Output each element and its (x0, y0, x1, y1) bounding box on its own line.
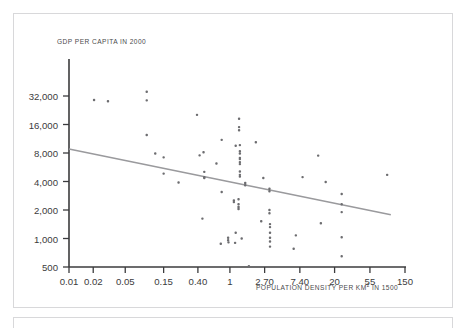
data-point (154, 152, 156, 154)
x-tick-label: 2.70 (255, 276, 274, 287)
data-point (269, 223, 271, 225)
data-point (237, 203, 239, 205)
data-point (201, 217, 203, 219)
data-point (146, 91, 148, 93)
y-tick-label: 4,000 (14, 176, 58, 187)
x-tick-label: 20 (329, 276, 340, 287)
y-tick-label: 1,000 (14, 233, 58, 244)
data-point (317, 154, 319, 156)
data-point (262, 177, 264, 179)
data-point (215, 162, 217, 164)
x-tick-label: 1 (227, 276, 232, 287)
data-point (239, 170, 241, 172)
data-point (177, 181, 179, 183)
data-point (234, 242, 236, 244)
data-point (269, 226, 271, 228)
data-point (320, 222, 322, 224)
data-point (93, 99, 95, 101)
data-point (203, 177, 205, 179)
data-point (248, 265, 250, 267)
data-point (239, 158, 241, 160)
data-point (162, 172, 164, 174)
x-tick-label: 0.01 (60, 276, 79, 287)
data-point (340, 203, 342, 205)
data-point (237, 198, 239, 200)
data-point (244, 184, 246, 186)
data-point (107, 100, 109, 102)
x-tick-label: 0.15 (154, 276, 173, 287)
data-point (238, 118, 240, 120)
x-tick-label: 55 (365, 276, 376, 287)
data-point (227, 236, 229, 238)
data-point (268, 190, 270, 192)
scatter-plot: GDP PER CAPITA IN 2000 POPULATION DENSIT… (14, 14, 454, 309)
y-tick-label: 16,000 (14, 119, 58, 130)
data-point (162, 156, 164, 158)
data-point (237, 208, 239, 210)
x-tick-label: 150 (397, 276, 413, 287)
data-point (220, 191, 222, 193)
data-point (255, 141, 257, 143)
data-point (235, 145, 237, 147)
data-point (238, 129, 240, 131)
data-point (239, 175, 241, 177)
data-point (146, 99, 148, 101)
data-point (239, 150, 241, 152)
data-point (239, 163, 241, 165)
data-point (340, 236, 342, 238)
plot-canvas (14, 14, 454, 309)
y-tick-label: 8,000 (14, 148, 58, 159)
data-point (268, 188, 270, 190)
data-point (301, 176, 303, 178)
data-point (238, 126, 240, 128)
data-point (220, 139, 222, 141)
data-point (292, 248, 294, 250)
x-tick-label: 0.40 (189, 276, 208, 287)
y-tick-label: 32,000 (14, 91, 58, 102)
data-point (227, 239, 229, 241)
data-point (196, 114, 198, 116)
data-point (324, 181, 326, 183)
data-point (220, 243, 222, 245)
data-point (202, 151, 204, 153)
data-point (268, 209, 270, 211)
data-point (269, 240, 271, 242)
data-point (340, 193, 342, 195)
data-point (386, 174, 388, 176)
data-point (340, 255, 342, 257)
data-point (269, 245, 271, 247)
next-panel-edge (13, 317, 453, 328)
data-point (268, 212, 270, 214)
data-point (146, 134, 148, 136)
data-point (198, 154, 200, 156)
figure-panel: GDP PER CAPITA IN 2000 POPULATION DENSIT… (13, 13, 453, 308)
x-tick-label: 0.05 (116, 276, 135, 287)
data-point (239, 152, 241, 154)
data-point (239, 144, 241, 146)
x-tick-label: 7.40 (291, 276, 310, 287)
data-point (227, 241, 229, 243)
data-point (203, 171, 205, 173)
data-point (233, 201, 235, 203)
data-point (240, 237, 242, 239)
data-point (295, 234, 297, 236)
data-point (260, 220, 262, 222)
data-point (244, 182, 246, 184)
y-tick-label: 500 (14, 262, 58, 273)
data-point (235, 232, 237, 234)
data-point (269, 236, 271, 238)
x-tick-label: 0.02 (84, 276, 103, 287)
y-tick-label: 2,000 (14, 205, 58, 216)
data-point (340, 211, 342, 213)
data-point (269, 232, 271, 234)
